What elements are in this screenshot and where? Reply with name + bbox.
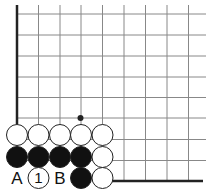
go-board: 1 AB — [0, 0, 208, 196]
white-stone — [92, 125, 113, 146]
white-stone — [50, 125, 71, 146]
star-point-dot — [78, 115, 84, 121]
star-point — [78, 115, 84, 121]
point-label-a: A — [11, 169, 23, 188]
move-number-label: 1 — [34, 169, 42, 186]
black-stone — [50, 147, 71, 168]
black-stone — [28, 147, 49, 168]
white-stone — [28, 125, 49, 146]
black-stone — [7, 147, 28, 168]
white-stone — [92, 147, 113, 168]
black-stone — [71, 168, 92, 189]
white-stone — [7, 125, 28, 146]
white-stone — [71, 125, 92, 146]
black-stone — [71, 147, 92, 168]
white-stone — [92, 168, 113, 189]
point-label-b: B — [54, 169, 65, 188]
